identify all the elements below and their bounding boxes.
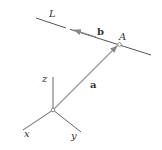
vector-a-arrow: [53, 46, 117, 110]
vector-a-label: a: [90, 79, 97, 90]
y-axis: [53, 110, 81, 132]
coordinate-axes: [23, 77, 81, 132]
z-axis-label: z: [41, 73, 48, 84]
point-A-label: A: [118, 31, 126, 42]
x-axis: [23, 110, 53, 130]
vector-line-diagram: L b A a z x y: [0, 0, 162, 150]
vector-b-arrow: [74, 30, 96, 37]
line-label: L: [48, 8, 56, 19]
vector-b-label: b: [97, 26, 104, 37]
origin-point: [51, 108, 55, 112]
point-A: [118, 43, 122, 47]
x-axis-label: x: [24, 128, 30, 139]
y-axis-label: y: [70, 130, 77, 141]
